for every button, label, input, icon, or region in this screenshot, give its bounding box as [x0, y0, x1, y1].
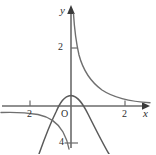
y-axis-arrow-icon: [67, 5, 75, 14]
x-tick-label-minus-2: 2: [27, 109, 32, 119]
y-tick-label-2: 2: [58, 42, 63, 52]
y-axis-label: y: [60, 5, 65, 16]
graph-canvas: [0, 0, 156, 154]
parabola-curve: [39, 96, 109, 155]
y-tick-label-minus-4: 4: [59, 137, 64, 147]
origin-label: O: [61, 109, 68, 119]
hyperbola-right-branch: [74, 14, 151, 103]
x-axis-label: x: [143, 108, 148, 119]
x-tick-label-2: 2: [122, 109, 127, 119]
graph-figure: y x O 2 2 2 4: [0, 0, 156, 154]
